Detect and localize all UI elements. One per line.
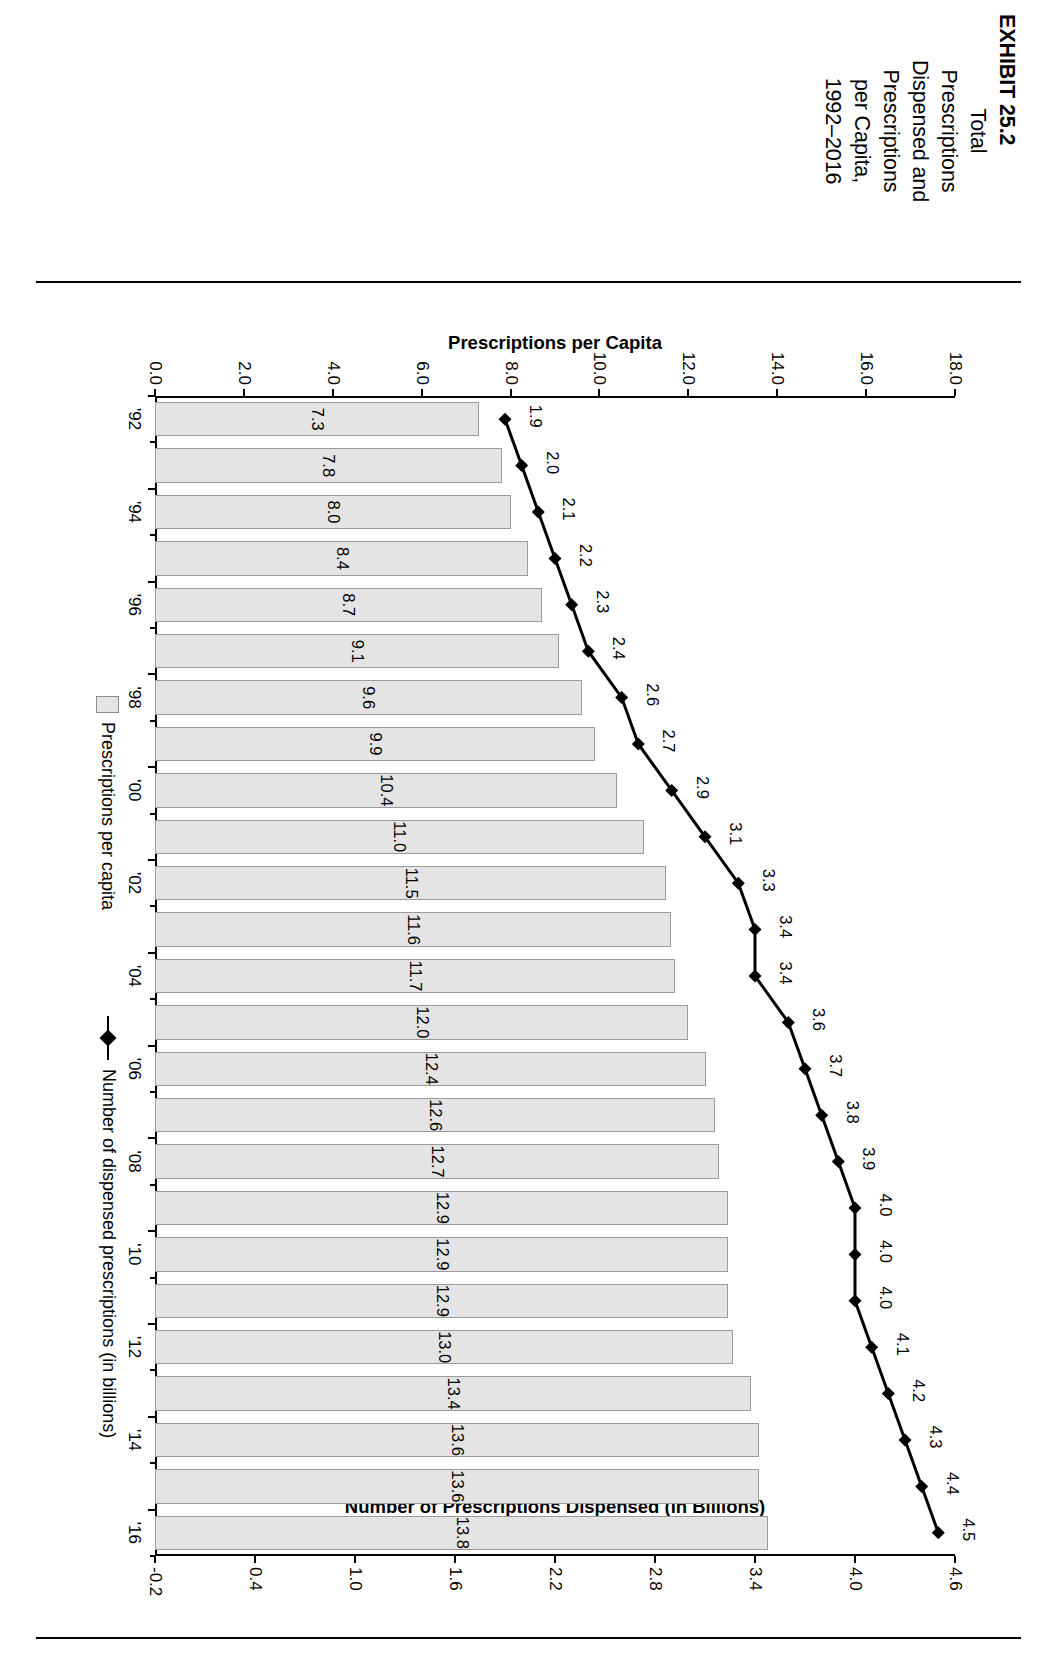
x-axis-tick-label: '08 xyxy=(124,1151,144,1173)
x-axis-tick-label: '12 xyxy=(124,1336,144,1358)
line-value-label: 4.0 xyxy=(876,1240,895,1263)
bar-value-label: 12.0 xyxy=(412,1006,431,1038)
line-value-label: 2.3 xyxy=(592,590,611,613)
y-axis-left-tick-label: 10.0 xyxy=(589,352,609,385)
y-axis-right-tick xyxy=(554,1556,556,1563)
bar-value-label: 12.6 xyxy=(426,1099,445,1131)
y-axis-left-tick xyxy=(776,389,778,396)
line-marker xyxy=(849,1248,862,1261)
y-axis-right-tick-label: 1.0 xyxy=(345,1567,365,1591)
line-value-label: 1.9 xyxy=(526,405,545,428)
bar-value-label: 7.3 xyxy=(308,408,327,431)
line-marker xyxy=(532,506,545,519)
x-axis-tick xyxy=(150,1184,155,1186)
x-axis-tick xyxy=(150,534,155,536)
x-axis-tick-label: '16 xyxy=(124,1522,144,1544)
y-axis-right-tick-label: 4.0 xyxy=(845,1567,865,1591)
x-axis-tick xyxy=(150,1369,155,1371)
line-marker xyxy=(549,552,562,565)
line-marker xyxy=(515,459,528,472)
y-axis-left-tick-label: 14.0 xyxy=(767,352,787,385)
y-axis-left-tick-label: 0.0 xyxy=(145,361,165,385)
x-axis-tick-label: '94 xyxy=(124,501,144,523)
x-axis-tick xyxy=(150,441,155,443)
exhibit-number: EXHIBIT 25.2 xyxy=(995,14,1019,145)
y-axis-left-tick-label: 12.0 xyxy=(678,352,698,385)
exhibit-page: EXHIBIT 25.2 Total Prescriptions Dispens… xyxy=(0,0,1039,1671)
y-axis-right-tick-label: 1.6 xyxy=(445,1567,465,1591)
line-marker xyxy=(865,1341,878,1354)
x-axis-tick xyxy=(150,1462,155,1464)
x-axis-tick xyxy=(148,952,155,954)
y-axis-right-tick xyxy=(254,1556,256,1563)
bar-value-label: 12.9 xyxy=(432,1192,451,1224)
figure-rule-left xyxy=(36,281,1021,283)
bar-value-label: 11.6 xyxy=(403,914,422,945)
line-value-label: 3.7 xyxy=(826,1054,845,1077)
bar-value-label: 12.4 xyxy=(421,1053,440,1085)
x-axis-tick xyxy=(150,998,155,1000)
line-value-label: 2.6 xyxy=(642,683,661,706)
line-value-label: 4.4 xyxy=(942,1472,961,1495)
bar-value-label: 10.4 xyxy=(377,774,396,806)
caption-line-5: per Capita, xyxy=(847,14,876,248)
x-axis-tick xyxy=(150,627,155,629)
caption-line-4: Prescriptions xyxy=(876,14,905,248)
x-axis-tick xyxy=(150,813,155,815)
line-value-label: 3.4 xyxy=(776,915,795,938)
line-value-label: 4.0 xyxy=(876,1286,895,1309)
bar-value-label: 7.8 xyxy=(319,454,338,477)
x-axis-tick-label: '98 xyxy=(124,687,144,709)
y-axis-left-tick xyxy=(687,389,689,396)
line-marker xyxy=(749,923,762,936)
line-marker xyxy=(882,1387,895,1400)
x-axis-tick-label: '10 xyxy=(124,1243,144,1265)
line-value-label: 3.9 xyxy=(859,1147,878,1170)
line-value-label: 4.0 xyxy=(876,1194,895,1217)
y-axis-right-tick-label: 0.4 xyxy=(245,1567,265,1591)
y-axis-right-tick xyxy=(454,1556,456,1563)
y-axis-left-tick xyxy=(510,389,512,396)
bar-value-label: 13.6 xyxy=(448,1424,467,1456)
line-marker xyxy=(565,598,578,611)
x-axis-tick xyxy=(148,1416,155,1418)
bar-value-label: 13.6 xyxy=(448,1470,467,1502)
x-axis-tick xyxy=(148,1509,155,1511)
y-axis-right-tick-label: -0.2 xyxy=(145,1567,165,1596)
line-value-label: 3.6 xyxy=(809,1008,828,1031)
line-value-label: 2.2 xyxy=(576,544,595,567)
x-axis-tick xyxy=(150,720,155,722)
y-axis-right-tick xyxy=(654,1556,656,1563)
y-axis-left-tick-label: 4.0 xyxy=(323,361,343,385)
x-axis-tick xyxy=(148,1045,155,1047)
x-axis-tick xyxy=(148,1323,155,1325)
x-axis-tick-label: '92 xyxy=(124,408,144,430)
y-axis-right-tick xyxy=(954,1556,956,1563)
line-value-label: 2.1 xyxy=(559,498,578,521)
line-value-label: 3.1 xyxy=(726,822,745,845)
y-axis-right-tick-label: 3.4 xyxy=(745,1567,765,1591)
bar-value-label: 9.6 xyxy=(359,686,378,709)
y-axis-left-tick-label: 18.0 xyxy=(945,352,965,385)
bar-value-label: 13.0 xyxy=(434,1331,453,1363)
bar-value-label: 12.9 xyxy=(432,1238,451,1270)
bar-value-label: 13.4 xyxy=(443,1378,462,1410)
y-axis-left-tick-label: 16.0 xyxy=(856,352,876,385)
y-axis-left-tick-label: 8.0 xyxy=(501,361,521,385)
rotated-figure-wrapper: EXHIBIT 25.2 Total Prescriptions Dispens… xyxy=(0,0,1039,1671)
bar-value-label: 8.0 xyxy=(323,501,342,524)
legend-label-bars: Prescriptions per capita xyxy=(97,722,118,910)
line-value-label: 2.4 xyxy=(609,637,628,660)
caption-line-2: Prescriptions xyxy=(934,14,963,248)
plot-area: Prescriptions per Capita Number of Presc… xyxy=(155,396,955,1556)
line-value-label: 4.1 xyxy=(892,1333,911,1356)
line-marker xyxy=(899,1434,912,1447)
y-axis-right-tick-label: 2.8 xyxy=(645,1567,665,1591)
y-axis-left-tick xyxy=(243,389,245,396)
line-value-label: 4.2 xyxy=(909,1379,928,1402)
x-axis-tick xyxy=(148,859,155,861)
bar-value-label: 12.9 xyxy=(432,1285,451,1317)
x-axis-tick xyxy=(150,905,155,907)
line-value-label: 3.4 xyxy=(776,962,795,985)
x-axis-tick-label: '02 xyxy=(124,872,144,894)
